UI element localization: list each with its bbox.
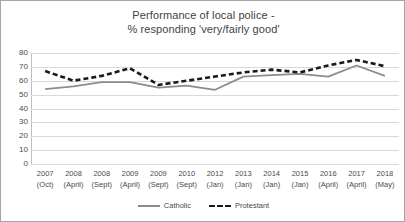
x-tick-year: 2018 xyxy=(371,168,399,179)
x-tick-month: (Jan) xyxy=(258,179,286,190)
x-tick-label: 2013(Jan) xyxy=(229,168,257,198)
x-tick-month: (Sept) xyxy=(144,179,172,190)
x-tick-year: 2017 xyxy=(342,168,370,179)
x-tick-year: 2015 xyxy=(286,168,314,179)
y-tick-label: 50 xyxy=(4,91,28,99)
y-tick-label: 10 xyxy=(4,146,28,154)
y-axis: 80706050403020100 xyxy=(1,53,28,164)
plot-area xyxy=(31,53,399,164)
x-tick-label: 2012(Jan) xyxy=(201,168,229,198)
x-tick-month: (Sept) xyxy=(173,179,201,190)
y-tick-label: 30 xyxy=(4,118,28,126)
x-tick-month: (Jan) xyxy=(229,179,257,190)
x-tick-month: (Sept) xyxy=(88,179,116,190)
legend-label: Catholic xyxy=(164,201,191,210)
x-axis: 2007(Oct)2008(April)2008(Sept)2009(April… xyxy=(31,168,399,198)
x-tick-label: 2015(Jan) xyxy=(286,168,314,198)
y-tick-label: 0 xyxy=(4,160,28,168)
gridline xyxy=(31,164,399,165)
x-tick-month: (May) xyxy=(371,179,399,190)
x-tick-year: 2008 xyxy=(88,168,116,179)
x-tick-year: 2012 xyxy=(201,168,229,179)
x-tick-year: 2009 xyxy=(144,168,172,179)
x-tick-month: (Jan) xyxy=(201,179,229,190)
y-tick-label: 70 xyxy=(4,63,28,71)
x-tick-month: (April) xyxy=(314,179,342,190)
x-tick-label: 2008(Sept) xyxy=(88,168,116,198)
chart-title: Performance of local police - % respondi… xyxy=(1,9,405,36)
x-tick-month: (Jan) xyxy=(286,179,314,190)
chart-title-line-2: % responding 'very/fairly good' xyxy=(1,23,405,37)
x-tick-label: 2016(April) xyxy=(314,168,342,198)
x-tick-year: 2008 xyxy=(59,168,87,179)
x-tick-year: 2016 xyxy=(314,168,342,179)
x-tick-label: 2010(Sept) xyxy=(173,168,201,198)
x-tick-label: 2009(April) xyxy=(116,168,144,198)
x-tick-label: 2018(May) xyxy=(371,168,399,198)
x-tick-year: 2010 xyxy=(173,168,201,179)
x-tick-year: 2013 xyxy=(229,168,257,179)
legend-swatch-icon xyxy=(138,205,160,207)
x-tick-month: (April) xyxy=(59,179,87,190)
x-tick-month: (April) xyxy=(342,179,370,190)
x-tick-year: 2014 xyxy=(258,168,286,179)
series-line-protestant xyxy=(45,60,385,85)
series-lines xyxy=(31,53,399,164)
x-tick-label: 2007(Oct) xyxy=(31,168,59,198)
legend-item-catholic[interactable]: Catholic xyxy=(138,201,191,210)
chart-container: Performance of local police - % respondi… xyxy=(0,0,405,222)
y-tick-label: 40 xyxy=(4,105,28,113)
chart-title-line-1: Performance of local police - xyxy=(1,9,405,23)
x-tick-year: 2007 xyxy=(31,168,59,179)
chart-legend: CatholicProtestant xyxy=(1,201,405,210)
x-tick-label: 2017(April) xyxy=(342,168,370,198)
y-tick-label: 20 xyxy=(4,132,28,140)
y-tick-label: 60 xyxy=(4,77,28,85)
x-tick-label: 2008(April) xyxy=(59,168,87,198)
x-tick-label: 2014(Jan) xyxy=(258,168,286,198)
legend-label: Protestant xyxy=(235,201,269,210)
legend-item-protestant[interactable]: Protestant xyxy=(209,201,269,210)
x-tick-month: (Oct) xyxy=(31,179,59,190)
x-tick-month: (April) xyxy=(116,179,144,190)
x-tick-label: 2009(Sept) xyxy=(144,168,172,198)
x-tick-year: 2009 xyxy=(116,168,144,179)
y-tick-label: 80 xyxy=(4,49,28,57)
legend-swatch-icon xyxy=(209,205,231,207)
